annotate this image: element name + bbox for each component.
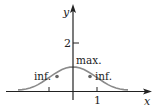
- max-label: max.: [76, 54, 101, 66]
- bell-curve-graph: y x 2 1 max. inf. inf.: [0, 0, 157, 111]
- inflection-left-label: inf.: [34, 70, 51, 82]
- x-axis-label: x: [144, 95, 151, 108]
- inflection-point-left: [55, 75, 59, 79]
- y-tick-label-2: 2: [64, 37, 71, 50]
- y-axis-label: y: [62, 6, 70, 19]
- inflection-point-right: [88, 75, 92, 79]
- inflection-right-label: inf.: [95, 70, 112, 82]
- x-tick-label-1: 1: [94, 94, 101, 107]
